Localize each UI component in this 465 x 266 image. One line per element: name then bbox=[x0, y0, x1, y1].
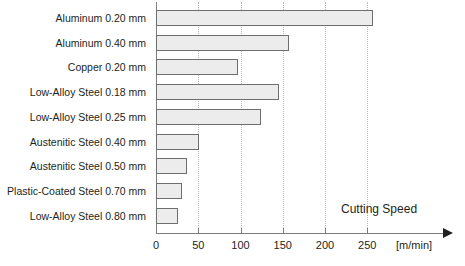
x-tick-label: 0 bbox=[153, 239, 159, 251]
x-axis-title: Cutting Speed bbox=[341, 203, 417, 216]
x-tick-label: 150 bbox=[274, 239, 292, 251]
gridline-250 bbox=[367, 2, 368, 234]
category-label: Austenitic Steel 0.50 mm bbox=[30, 161, 146, 172]
x-tick bbox=[156, 228, 157, 234]
x-tick bbox=[241, 228, 242, 234]
x-tick-label: 50 bbox=[192, 239, 204, 251]
bar bbox=[156, 208, 178, 224]
bar bbox=[156, 10, 373, 26]
x-tick bbox=[198, 228, 199, 234]
bar bbox=[156, 134, 199, 150]
x-tick-label: 200 bbox=[316, 239, 334, 251]
x-tick-label: 250 bbox=[358, 239, 376, 251]
category-label: Copper 0.20 mm bbox=[68, 62, 146, 73]
x-axis-line bbox=[156, 233, 445, 234]
category-label: Low-Alloy Steel 0.18 mm bbox=[30, 87, 146, 98]
category-axis-labels: Aluminum 0.20 mmAluminum 0.40 mmCopper 0… bbox=[0, 0, 151, 266]
category-label: Austenitic Steel 0.40 mm bbox=[30, 137, 146, 148]
category-label: Aluminum 0.40 mm bbox=[56, 38, 146, 49]
bar bbox=[156, 84, 279, 100]
x-tick-label: 100 bbox=[231, 239, 249, 251]
bar bbox=[156, 109, 261, 125]
category-label: Plastic-Coated Steel 0.70 mm bbox=[7, 186, 146, 197]
category-label: Low-Alloy Steel 0.80 mm bbox=[30, 211, 146, 222]
plot-area bbox=[156, 0, 465, 266]
bar bbox=[156, 183, 182, 199]
x-tick bbox=[367, 228, 368, 234]
x-axis-unit-label: [m/min] bbox=[396, 239, 432, 251]
gridline-200 bbox=[325, 2, 326, 234]
cutting-speed-bar-chart: Aluminum 0.20 mmAluminum 0.40 mmCopper 0… bbox=[0, 0, 465, 266]
bar bbox=[156, 59, 238, 75]
category-label: Low-Alloy Steel 0.25 mm bbox=[30, 112, 146, 123]
x-axis-arrow-icon bbox=[443, 228, 453, 238]
bar bbox=[156, 158, 187, 174]
x-tick bbox=[283, 228, 284, 234]
category-label: Aluminum 0.20 mm bbox=[56, 13, 146, 24]
bar bbox=[156, 35, 289, 51]
x-tick bbox=[325, 228, 326, 234]
